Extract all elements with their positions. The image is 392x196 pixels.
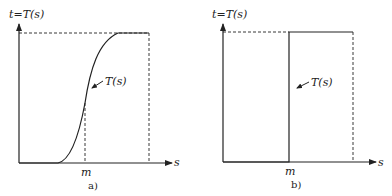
- y-axis-label: t=T(s): [9, 8, 44, 21]
- y-axis-label: t=T(s): [212, 8, 247, 21]
- curve-label: T(s): [105, 75, 127, 88]
- step-curve: [223, 32, 353, 162]
- sigmoid-curve: [19, 33, 149, 163]
- curve-label-arrow: [92, 81, 103, 88]
- diagram-canvas: T(s) t=T(s) s m a) T(s) t=T(s) s m b): [0, 0, 392, 196]
- caption: a): [88, 180, 98, 191]
- panel-b: T(s) t=T(s) s m b): [212, 8, 384, 190]
- panel-a: T(s) t=T(s) s m a): [9, 8, 180, 191]
- curve-label: T(s): [311, 76, 333, 89]
- x-axis-label: s: [174, 156, 180, 169]
- x-axis-label: s: [378, 156, 384, 169]
- caption: b): [291, 179, 301, 190]
- tick-label-m: m: [285, 165, 295, 178]
- curve-label-arrow: [297, 82, 309, 88]
- tick-label-m: m: [81, 166, 91, 179]
